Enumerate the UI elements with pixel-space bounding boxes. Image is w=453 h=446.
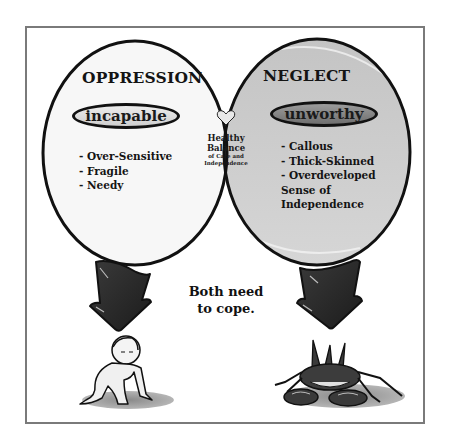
oppression-traits: - Over-Sensitive - Fragile - Needy xyxy=(79,149,172,193)
trait-item: - Callous xyxy=(281,139,376,154)
caption-line-2: to cope. xyxy=(187,300,265,317)
trait-item: - Overdeveloped xyxy=(281,168,376,183)
unworthy-label-text: unworthy xyxy=(284,105,363,123)
arrow-down-left-icon xyxy=(90,261,151,331)
incapable-label: incapable xyxy=(72,103,180,129)
independence-line: Independence xyxy=(201,160,251,167)
healthy-line: Healthy xyxy=(201,133,251,143)
balance-line: Balance xyxy=(201,143,251,153)
venn-diagram xyxy=(0,0,453,446)
caption-line-1: Both need xyxy=(187,283,265,300)
care-line: of Care and xyxy=(201,153,251,160)
neglect-title: NEGLECT xyxy=(263,66,350,85)
trait-item: - Over-Sensitive xyxy=(79,149,172,164)
trait-item: - Fragile xyxy=(79,164,172,179)
spiky-crab-illustration xyxy=(275,340,405,408)
healthy-balance-text: Healthy Balance of Care and Independence xyxy=(201,133,251,167)
oppression-title: OPPRESSION xyxy=(82,68,202,87)
trait-item: Sense of xyxy=(281,183,376,198)
trait-item: - Needy xyxy=(79,178,172,193)
neglect-traits: - Callous - Thick-Skinned - Overdevelope… xyxy=(281,139,376,212)
incapable-label-text: incapable xyxy=(85,107,166,125)
arrow-down-right-icon xyxy=(297,260,362,329)
crawling-baby-illustration xyxy=(80,336,174,409)
caption: Both need to cope. xyxy=(187,283,265,317)
trait-item: - Thick-Skinned xyxy=(281,154,376,169)
unworthy-label: unworthy xyxy=(270,101,378,127)
trait-item: Independence xyxy=(281,197,376,212)
